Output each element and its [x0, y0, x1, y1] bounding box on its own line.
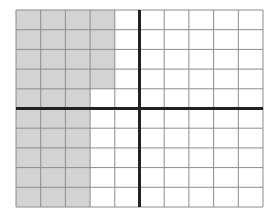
shaded-cell — [90, 49, 115, 69]
shaded-cell — [65, 30, 90, 50]
shaded-cell — [65, 128, 90, 148]
shaded-cell — [16, 187, 41, 207]
shaded-cell — [41, 89, 66, 109]
shaded-cell — [16, 148, 41, 168]
shaded-cell — [41, 10, 66, 30]
shaded-cell — [90, 69, 115, 89]
shaded-cell — [16, 168, 41, 188]
shaded-cell — [41, 109, 66, 129]
shaded-cell — [65, 109, 90, 129]
shaded-cell — [41, 69, 66, 89]
shaded-cell — [90, 30, 115, 50]
shaded-cell — [16, 109, 41, 129]
shaded-cell — [16, 89, 41, 109]
shaded-cell — [41, 168, 66, 188]
shaded-cell — [65, 10, 90, 30]
shaded-cell — [65, 187, 90, 207]
shaded-cell — [90, 10, 115, 30]
shaded-cell — [41, 148, 66, 168]
shaded-cell — [16, 49, 41, 69]
shaded-cell — [41, 128, 66, 148]
shaded-cell — [65, 168, 90, 188]
shaded-cell — [16, 10, 41, 30]
shaded-cell — [41, 187, 66, 207]
shaded-cell — [65, 69, 90, 89]
shaded-cell — [65, 49, 90, 69]
shaded-cell — [41, 49, 66, 69]
shaded-cell — [16, 128, 41, 148]
shaded-cell — [16, 30, 41, 50]
shaded-cell — [16, 69, 41, 89]
shaded-cell — [41, 30, 66, 50]
shaded-cell — [65, 89, 90, 109]
shaded-cell — [65, 148, 90, 168]
grid-diagram — [0, 0, 278, 222]
